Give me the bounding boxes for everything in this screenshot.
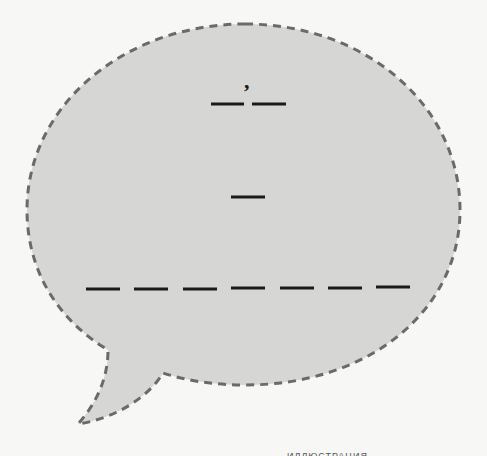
comma-mark: ,	[244, 68, 250, 93]
speech-bubble-illustration: ,	[0, 0, 487, 456]
footer-caption: ИЛЛЮСТРАЦИЯ	[287, 450, 368, 456]
worksheet-canvas: , ИЛЛЮСТРАЦИЯ	[0, 0, 487, 456]
